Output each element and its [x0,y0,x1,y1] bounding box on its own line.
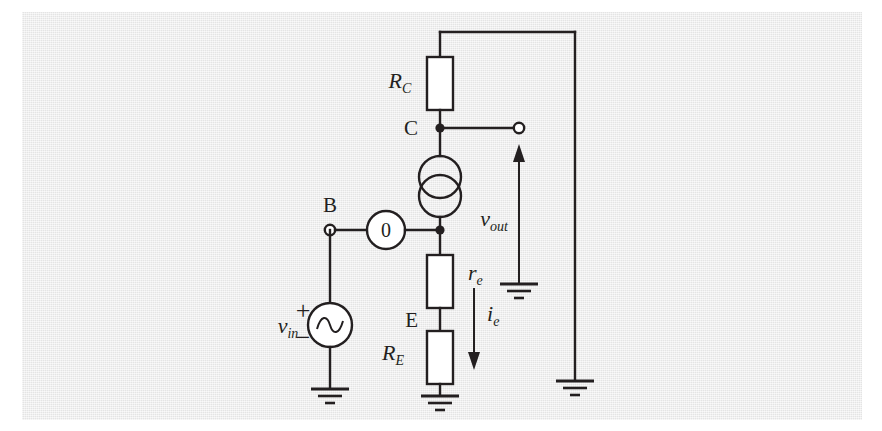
current-arrow-ie-head [468,352,480,370]
emitter-branch-re-small [427,230,453,331]
supply-rail-wire [440,32,575,380]
voltage-arrow-vout-label: vout [480,206,509,234]
ac-source-minus-sign: − [296,323,311,352]
input-source-branch [308,230,352,388]
ac-source-plus-sign: + [296,296,311,325]
controlled-current-source [419,128,461,230]
base-branch: B 0 [323,193,445,249]
ground-symbol-supply [556,381,594,395]
node-c: C [404,116,445,140]
current-source-circle-lower [419,175,461,217]
ground-symbol-vin [311,389,349,403]
circuit-schematic: RC C B 0 [0,0,882,431]
node-c-label: C [404,116,418,140]
current-arrow-ie-label: ie [487,301,499,329]
voltage-arrow-vout-head [513,144,525,162]
resistor-rc-body [427,57,453,110]
figure-root: RC C B 0 [0,0,882,431]
output-open-terminal [514,123,524,133]
resistor-re-small-body [427,255,453,308]
resistor-rc-label: RC [388,68,412,96]
collector-branch [427,32,453,128]
resistor-re-small-label: re [468,260,483,288]
node-b-label: B [323,193,337,217]
ground-symbol-emitter [421,396,459,410]
current-source-circle-upper [419,156,461,198]
zero-source-label: 0 [381,219,391,241]
current-arrow-ie [468,288,480,370]
output-terminal-wire [440,123,524,133]
resistor-re-big-label: RE [381,340,404,368]
resistor-re-big-body [427,331,453,384]
node-e-label: E [405,308,418,332]
voltage-arrow-vout [513,144,525,283]
emitter-branch-re-big [427,331,453,395]
ground-symbol-vout-reference [500,284,538,298]
